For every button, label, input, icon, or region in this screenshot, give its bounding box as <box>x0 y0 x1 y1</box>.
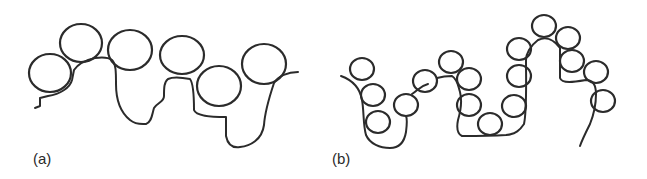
bead-circle <box>394 94 418 116</box>
panel-label-a: (a) <box>33 150 51 167</box>
bead-circle <box>350 58 374 80</box>
panel-a <box>29 24 298 147</box>
bead-circle <box>29 54 71 92</box>
bead-circle <box>197 66 241 106</box>
bead-circle <box>560 50 584 72</box>
bead-circle <box>108 30 152 70</box>
polymer-strand-a <box>35 57 298 147</box>
diagram-canvas <box>0 0 647 179</box>
bead-circle <box>591 90 615 112</box>
bead-circle <box>502 95 526 117</box>
beads-a <box>29 24 286 106</box>
bead-circle <box>584 61 608 83</box>
bead-circle <box>507 38 531 60</box>
bead-circle <box>507 65 531 87</box>
bead-circle <box>242 44 286 84</box>
bead-circle <box>556 27 580 49</box>
bead-circle <box>160 36 204 74</box>
beads-b <box>350 15 615 135</box>
bead-circle <box>439 51 463 73</box>
bead-circle <box>413 70 437 92</box>
bead-circle <box>366 111 390 133</box>
bead-circle <box>361 84 385 106</box>
polymer-adsorption-figure: (a) (b) <box>0 0 647 179</box>
bead-circle <box>532 15 556 37</box>
panel-b <box>341 15 615 148</box>
panel-label-b: (b) <box>332 150 350 167</box>
bead-circle <box>457 68 481 90</box>
bead-circle <box>478 113 502 135</box>
bead-circle <box>60 24 102 62</box>
